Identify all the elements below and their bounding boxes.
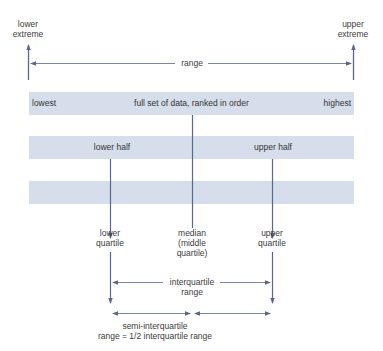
- median-line2: (middle: [172, 238, 212, 248]
- upper-quartile-line1: upper: [252, 228, 292, 238]
- median-line3: quartile): [172, 248, 212, 258]
- semi-interquartile-line2: range = 1/2 interquartile range: [90, 331, 220, 341]
- lower-quartile-label: lower quartile: [90, 228, 130, 248]
- lower-quartile-line2: quartile: [90, 238, 130, 248]
- lower-quartile-line1: lower: [90, 228, 130, 238]
- median-label: median (middle quartile): [172, 228, 212, 258]
- range-label: range: [176, 58, 208, 68]
- semi-interquartile-line1: semi-interquartile: [90, 321, 220, 331]
- upper-quartile-label: upper quartile: [252, 228, 292, 248]
- connector-lines: [0, 0, 383, 351]
- semi-interquartile-label: semi-interquartile range = 1/2 interquar…: [90, 321, 220, 341]
- interquartile-line1: interquartile: [162, 277, 222, 287]
- upper-quartile-line2: quartile: [252, 238, 292, 248]
- median-line1: median: [172, 228, 212, 238]
- interquartile-line2: range: [162, 287, 222, 297]
- interquartile-range-label: interquartile range: [162, 277, 222, 297]
